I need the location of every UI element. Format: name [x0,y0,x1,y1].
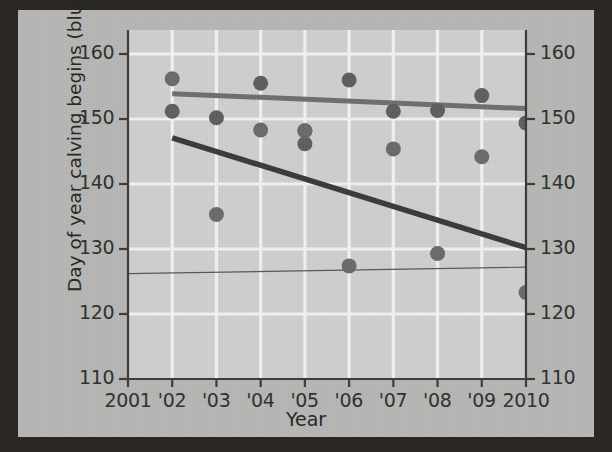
data-point-calving [253,76,268,91]
y-tick-label-right: 110 [540,366,575,388]
plot-area [128,30,526,379]
y-tick-label-left: 120 [79,301,114,323]
y-tick-label-left: 110 [79,366,114,388]
data-point-plant-growth [253,123,268,138]
data-point-calving [430,103,445,118]
x-tick-label: '07 [379,389,408,411]
data-point-plant-growth [430,246,445,261]
data-point-plant-growth [297,123,312,138]
data-point-plant-growth [342,258,357,273]
figure-panel: Day of year calving begins (blue) Day of… [18,10,594,437]
data-point-calving [474,88,489,103]
y-tick-label-left: 140 [79,171,114,193]
data-point-calving [209,110,224,125]
y-tick-label-right: 140 [540,171,575,193]
data-point-calving [165,104,180,119]
y-tick-label-left: 130 [79,236,114,258]
x-axis-label: Year [18,408,594,430]
data-point-plant-growth [209,207,224,222]
x-tick-label: '03 [202,389,231,411]
data-point-calving [297,136,312,151]
x-tick-label: '02 [158,389,187,411]
x-tick-label: '04 [246,389,275,411]
data-point-plant-growth [165,71,180,86]
x-tick-label: 2010 [503,389,550,411]
data-point-plant-growth [474,149,489,164]
data-point-plant-growth [519,285,527,300]
y-tick-label-right: 150 [540,106,575,128]
x-tick-label: '08 [423,389,452,411]
y-tick-label-left: 150 [79,106,114,128]
x-tick-label: '06 [335,389,364,411]
x-tick-label: '05 [290,389,319,411]
y-tick-label-right: 120 [540,301,575,323]
data-point-calving [342,73,357,88]
screenshot-root: Day of year calving begins (blue) Day of… [0,0,612,452]
y-tick-label-left: 160 [79,41,114,63]
y-tick-label-right: 160 [540,41,575,63]
x-tick-label: 2001 [105,389,152,411]
data-point-plant-growth [386,141,401,156]
data-point-calving [386,104,401,119]
chart-canvas [128,30,526,379]
thin-reference-line [128,267,526,274]
x-tick-label: '09 [467,389,496,411]
y-tick-label-right: 130 [540,236,575,258]
